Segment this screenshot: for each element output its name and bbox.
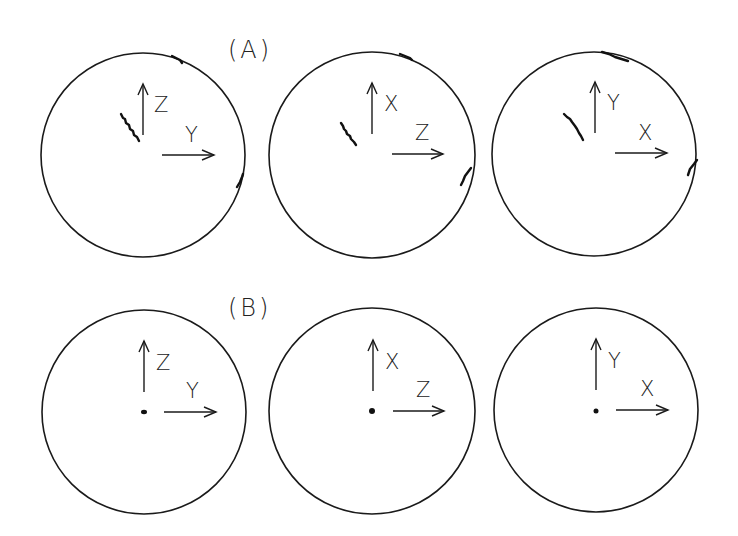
pole-trace <box>461 168 471 185</box>
vertical-axis-label: Y <box>608 349 621 373</box>
vertical-axis-label: Z <box>154 93 168 117</box>
pole-trace <box>341 123 356 145</box>
horizontal-axis-label: X <box>638 121 652 145</box>
pole-trace <box>564 114 583 140</box>
horizontal-axis-label: Y <box>185 123 198 147</box>
horizontal-axis-label: Z <box>416 378 430 402</box>
vertical-axis-label: X <box>385 350 399 374</box>
figure-canvas: (A) (B) Z Y X Z Y X <box>0 0 738 536</box>
plot-a3: Y X <box>492 52 697 256</box>
horizontal-axis-label: Z <box>415 121 429 145</box>
horizontal-axis-label: Y <box>186 379 199 403</box>
panel-label-a: (A) <box>228 36 272 64</box>
plot-b3: Y X <box>494 308 698 512</box>
plot-b1: Z Y <box>42 310 246 514</box>
plot-a1: Z Y <box>41 53 245 257</box>
pole-dot <box>369 408 375 414</box>
plot-a2: X Z <box>269 52 475 258</box>
panel-label-b: (B) <box>228 294 271 322</box>
pole-trace <box>172 56 182 63</box>
plot-b2: X Z <box>269 308 475 514</box>
vertical-axis-label: X <box>384 92 398 116</box>
pole-trace <box>121 114 139 141</box>
pole-dot <box>141 410 147 414</box>
vertical-axis-label: Y <box>607 91 620 115</box>
pole-dot <box>594 409 599 414</box>
horizontal-axis-label: X <box>640 377 654 401</box>
vertical-axis-label: Z <box>156 351 170 375</box>
